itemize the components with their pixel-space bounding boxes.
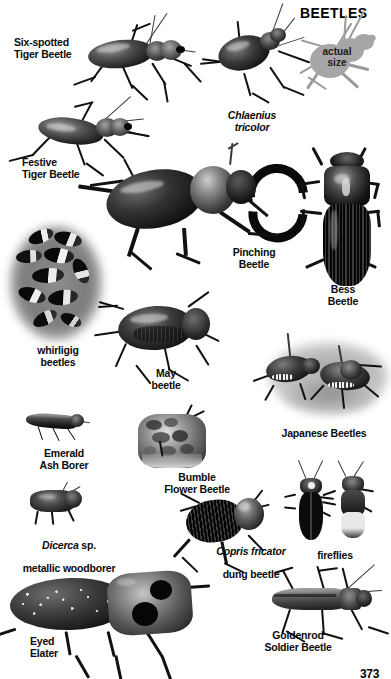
- label-six-spotted-tiger-beetle: Six-spotted Tiger Beetle: [14, 37, 72, 60]
- label-dicerca-genus: Dicerca: [42, 539, 79, 551]
- label-festive-tiger-beetle: Festive Tiger Beetle: [22, 157, 80, 180]
- label-may-beetle: May beetle: [137, 368, 195, 391]
- label-fireflies: fireflies: [300, 550, 370, 562]
- label-pinching-beetle: Pinching Beetle: [213, 247, 295, 270]
- specimen-emerald-ash-borer: [22, 408, 92, 444]
- specimen-six-spotted-tiger-beetle: [60, 14, 210, 104]
- label-whirligig-beetles: whirligig beetles: [10, 345, 106, 368]
- label-japanese-beetles: Japanese Beetles: [268, 428, 380, 440]
- page-number: 373: [360, 667, 379, 679]
- specimen-whirligig-beetles: [2, 222, 114, 344]
- label-bess-beetle: Bess Beetle: [304, 284, 382, 307]
- specimen-chlaenius-tricolor: [204, 10, 334, 110]
- specimen-bess-beetle: [300, 146, 386, 294]
- specimen-eyed-elater: [4, 560, 214, 678]
- specimen-bumble-flower-beetle: [134, 410, 214, 478]
- label-goldenrod-soldier-beetle: Goldenrod Soldier Beetle: [236, 630, 360, 653]
- label-chlaenius-tricolor: Chlaenius tricolor: [204, 110, 300, 133]
- beetles-field-guide-page: BEETLES actual size: [0, 0, 391, 679]
- label-emerald-ash-borer: Emerald Ash Borer: [20, 448, 108, 471]
- label-dicerca-sp: sp.: [79, 539, 96, 551]
- specimen-fireflies: [284, 464, 384, 554]
- specimen-japanese-beetles: [246, 338, 391, 430]
- specimen-dicerca-metallic-woodborer: [24, 484, 94, 528]
- label-eyed-elater: Eyed Elater: [30, 636, 58, 659]
- label-copris-species: Copris fricator: [216, 545, 285, 557]
